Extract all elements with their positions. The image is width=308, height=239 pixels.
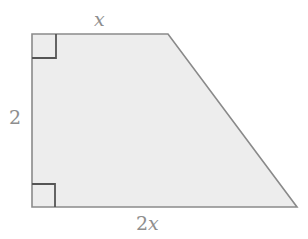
trapezoid-figure: x 2 2x <box>0 0 308 239</box>
trapezoid-diagram <box>0 0 308 239</box>
side-label-left: 2 <box>9 108 21 127</box>
side-label-bottom-coefficient: 2 <box>136 212 148 234</box>
side-label-bottom-variable: x <box>148 212 159 234</box>
side-label-top: x <box>94 10 105 29</box>
trapezoid-shape <box>32 34 297 207</box>
side-label-bottom: 2x <box>136 214 159 233</box>
